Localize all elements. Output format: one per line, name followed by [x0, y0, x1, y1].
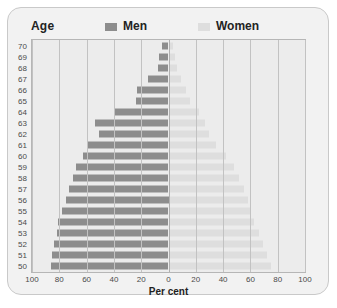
y-tick-52: 52: [18, 240, 27, 249]
x-tick-10: 100: [298, 275, 311, 284]
bar-women-age-63: [169, 119, 206, 126]
bar-women-age-62: [169, 130, 210, 137]
bar-women-age-61: [169, 141, 217, 148]
gridline-right-20: [196, 40, 197, 272]
y-tick-62: 62: [18, 129, 27, 138]
x-tick-5: 0: [166, 275, 170, 284]
y-tick-60: 60: [18, 152, 27, 161]
bar-women-age-51: [169, 252, 267, 259]
x-tick-1: 80: [55, 275, 64, 284]
bar-women-age-67: [169, 75, 181, 82]
bar-men-age-68: [158, 64, 169, 71]
legend-swatch-men-icon: [105, 23, 117, 31]
y-axis-labels: 7069686766656463626160595857565554535251…: [8, 39, 29, 273]
bar-men-age-50: [51, 263, 168, 270]
x-tick-9: 80: [273, 275, 282, 284]
y-tick-61: 61: [18, 140, 27, 149]
x-tick-8: 60: [246, 275, 255, 284]
gridline-left-40: [114, 40, 115, 272]
y-tick-70: 70: [18, 41, 27, 50]
gridline-left-80: [59, 40, 60, 272]
age-axis-title: Age: [31, 19, 54, 33]
y-tick-51: 51: [18, 251, 27, 260]
bar-women-age-57: [169, 186, 244, 193]
gridline-left-20: [141, 40, 142, 272]
bar-women-age-50: [169, 263, 271, 270]
bar-women-age-55: [169, 208, 251, 215]
gridline-left-60: [87, 40, 88, 272]
gridline-right-80: [278, 40, 279, 272]
bar-men-age-62: [99, 130, 169, 137]
x-tick-4: 20: [137, 275, 146, 284]
bar-men-age-60: [83, 152, 169, 159]
bar-women-age-58: [169, 175, 240, 182]
bar-men-age-56: [66, 197, 168, 204]
y-tick-55: 55: [18, 207, 27, 216]
gridline-right-40: [223, 40, 224, 272]
y-tick-68: 68: [18, 63, 27, 72]
x-tick-6: 20: [191, 275, 200, 284]
y-tick-50: 50: [18, 262, 27, 271]
bar-women-age-54: [169, 219, 255, 226]
bar-men-age-61: [88, 141, 169, 148]
bar-men-age-69: [159, 53, 169, 60]
y-tick-63: 63: [18, 118, 27, 127]
y-tick-57: 57: [18, 185, 27, 194]
x-axis-title: Per cent: [31, 286, 306, 297]
bar-men-age-67: [148, 75, 168, 82]
plot-area: [31, 39, 306, 273]
bar-men-age-52: [54, 241, 169, 248]
y-tick-56: 56: [18, 196, 27, 205]
gridline-0: [169, 40, 170, 272]
bar-men-age-59: [76, 164, 169, 171]
chart-card: Age Men Women 70696867666564636261605958…: [7, 7, 329, 295]
bar-men-age-70: [162, 42, 169, 49]
x-tick-7: 40: [219, 275, 228, 284]
bar-men-age-63: [95, 119, 169, 126]
bar-men-age-55: [62, 208, 168, 215]
bar-women-age-53: [169, 230, 259, 237]
legend-label-men: Men: [123, 19, 147, 33]
chart-header: Age Men Women: [8, 14, 330, 40]
y-tick-65: 65: [18, 96, 27, 105]
legend-label-women: Women: [216, 19, 259, 33]
bar-men-age-51: [52, 252, 168, 259]
bar-women-age-59: [169, 164, 235, 171]
y-tick-54: 54: [18, 218, 27, 227]
y-tick-58: 58: [18, 174, 27, 183]
bar-women-age-52: [169, 241, 263, 248]
gridline-right-100: [305, 40, 306, 272]
gridline-left-100: [32, 40, 33, 272]
bar-women-age-60: [169, 152, 226, 159]
bar-women-age-64: [169, 108, 199, 115]
y-tick-67: 67: [18, 74, 27, 83]
y-tick-64: 64: [18, 107, 27, 116]
bar-women-age-65: [169, 97, 191, 104]
x-tick-3: 40: [109, 275, 118, 284]
gridline-right-60: [250, 40, 251, 272]
legend-swatch-women-icon: [198, 23, 210, 31]
y-tick-69: 69: [18, 52, 27, 61]
y-tick-59: 59: [18, 163, 27, 172]
bar-women-age-66: [169, 86, 187, 93]
bar-men-age-57: [69, 186, 169, 193]
bar-women-age-56: [169, 197, 248, 204]
y-tick-53: 53: [18, 229, 27, 238]
x-tick-0: 100: [25, 275, 38, 284]
x-tick-2: 60: [82, 275, 91, 284]
bar-men-age-53: [57, 230, 169, 237]
y-tick-66: 66: [18, 85, 27, 94]
